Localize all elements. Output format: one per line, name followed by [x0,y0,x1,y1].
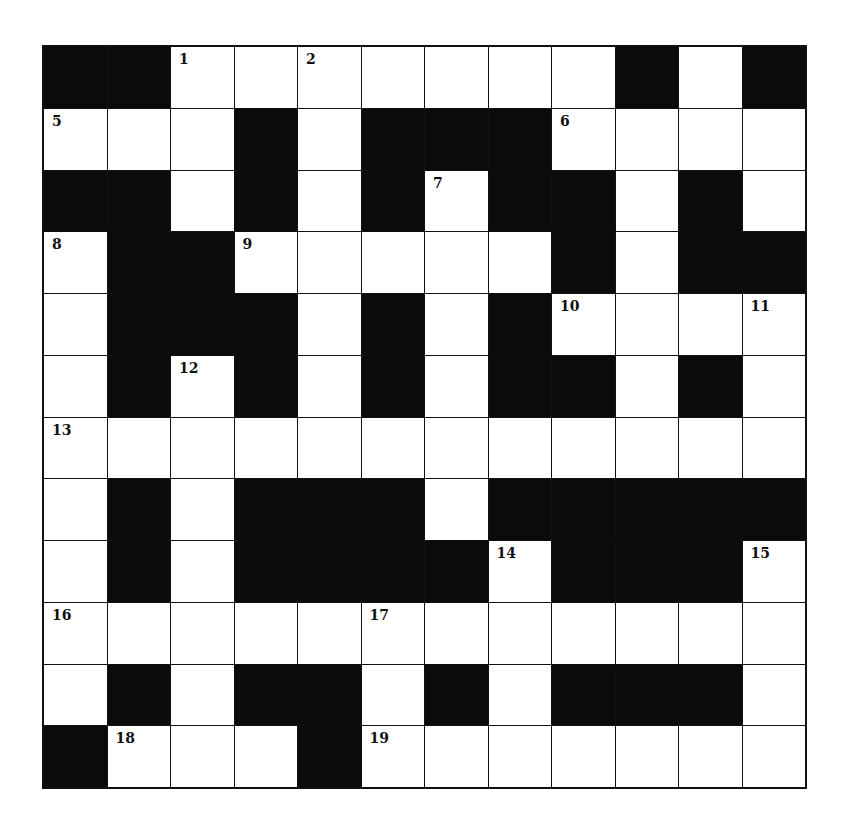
answer-cell[interactable] [425,726,488,787]
answer-cell[interactable] [362,232,425,293]
answer-cell[interactable] [743,603,806,664]
answer-cell[interactable] [743,109,806,170]
block-cell [489,109,552,170]
answer-cell[interactable]: 8 [44,232,107,293]
answer-cell[interactable] [616,171,679,232]
answer-cell[interactable]: 6 [552,109,615,170]
answer-cell[interactable] [44,541,107,602]
answer-cell[interactable] [235,603,298,664]
answer-cell[interactable] [425,603,488,664]
answer-cell[interactable] [171,479,234,540]
block-cell [362,479,425,540]
answer-cell[interactable] [298,232,361,293]
answer-cell[interactable] [171,418,234,479]
answer-cell[interactable] [108,109,171,170]
answer-cell[interactable] [171,541,234,602]
answer-cell[interactable] [298,356,361,417]
answer-cell[interactable] [44,479,107,540]
answer-cell[interactable] [616,726,679,787]
answer-cell[interactable] [362,47,425,108]
answer-cell[interactable]: 1 [171,47,234,108]
answer-cell[interactable] [616,232,679,293]
answer-cell[interactable]: 10 [552,294,615,355]
answer-cell[interactable]: 14 [489,541,552,602]
answer-cell[interactable] [743,356,806,417]
answer-cell[interactable] [616,603,679,664]
answer-cell[interactable]: 11 [743,294,806,355]
answer-cell[interactable] [743,665,806,726]
answer-cell[interactable] [616,418,679,479]
answer-cell[interactable] [743,418,806,479]
answer-cell[interactable] [298,294,361,355]
answer-cell[interactable] [489,47,552,108]
clue-number: 7 [433,176,443,190]
answer-cell[interactable] [171,665,234,726]
answer-cell[interactable] [235,726,298,787]
answer-cell[interactable] [362,665,425,726]
answer-cell[interactable] [552,603,615,664]
answer-cell[interactable] [552,47,615,108]
answer-cell[interactable]: 16 [44,603,107,664]
answer-cell[interactable] [362,418,425,479]
answer-cell[interactable] [679,47,742,108]
answer-cell[interactable] [425,479,488,540]
answer-cell[interactable] [489,665,552,726]
answer-cell[interactable] [44,356,107,417]
answer-cell[interactable]: 19 [362,726,425,787]
clue-number: 9 [243,237,253,251]
answer-cell[interactable] [616,356,679,417]
answer-cell[interactable] [298,418,361,479]
answer-cell[interactable] [425,232,488,293]
answer-cell[interactable] [235,418,298,479]
block-cell [679,171,742,232]
answer-cell[interactable] [298,109,361,170]
answer-cell[interactable] [298,171,361,232]
answer-cell[interactable] [679,418,742,479]
answer-cell[interactable] [425,294,488,355]
answer-cell[interactable]: 18 [108,726,171,787]
answer-cell[interactable] [489,232,552,293]
answer-cell[interactable] [552,726,615,787]
answer-cell[interactable] [171,603,234,664]
answer-cell[interactable] [44,294,107,355]
answer-cell[interactable] [679,726,742,787]
answer-cell[interactable] [298,603,361,664]
answer-cell[interactable] [489,726,552,787]
answer-cell[interactable] [679,109,742,170]
answer-cell[interactable] [552,418,615,479]
answer-cell[interactable]: 5 [44,109,107,170]
block-cell [679,665,742,726]
answer-cell[interactable]: 2 [298,47,361,108]
block-cell [44,47,107,108]
block-cell [743,479,806,540]
answer-cell[interactable] [235,47,298,108]
block-cell [362,541,425,602]
answer-cell[interactable] [616,109,679,170]
answer-cell[interactable]: 9 [235,232,298,293]
answer-cell[interactable]: 13 [44,418,107,479]
answer-cell[interactable]: 17 [362,603,425,664]
answer-cell[interactable]: 15 [743,541,806,602]
block-cell [108,356,171,417]
answer-cell[interactable] [44,665,107,726]
answer-cell[interactable] [489,603,552,664]
clue-number: 6 [560,114,570,128]
answer-cell[interactable] [425,47,488,108]
clue-number: 17 [370,608,389,622]
answer-cell[interactable] [171,109,234,170]
answer-cell[interactable] [743,171,806,232]
answer-cell[interactable] [171,171,234,232]
answer-cell[interactable] [679,603,742,664]
answer-cell[interactable] [425,418,488,479]
answer-cell[interactable] [425,356,488,417]
answer-cell[interactable] [171,726,234,787]
answer-cell[interactable] [108,603,171,664]
answer-cell[interactable] [743,726,806,787]
answer-cell[interactable]: 7 [425,171,488,232]
answer-cell[interactable] [679,294,742,355]
answer-cell[interactable] [108,418,171,479]
answer-cell[interactable]: 12 [171,356,234,417]
answer-cell[interactable] [489,418,552,479]
answer-cell[interactable] [616,294,679,355]
block-cell [425,665,488,726]
